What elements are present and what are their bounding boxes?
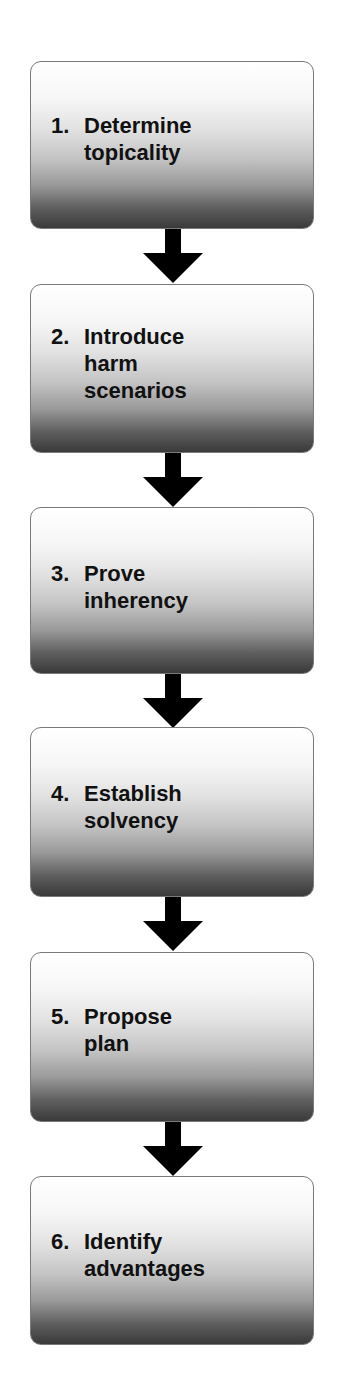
step-label-5: 5.Propose plan xyxy=(51,1003,303,1057)
step-box-5: 5.Propose plan xyxy=(30,952,314,1122)
step-box-1: 1.Determine topicality xyxy=(30,61,314,229)
down-arrow-icon xyxy=(143,1122,203,1176)
down-arrow-icon xyxy=(143,453,203,507)
step-label-1: 1.Determine topicality xyxy=(51,112,303,166)
step-box-6: 6.Identify advantages xyxy=(30,1176,314,1345)
step-box-3: 3.Prove inherency xyxy=(30,507,314,674)
step-label-3: 3.Prove inherency xyxy=(51,560,303,614)
down-arrow-icon xyxy=(143,674,203,727)
step-box-4: 4.Establish solvency xyxy=(30,727,314,897)
step-box-2: 2.Introduce harm scenarios xyxy=(30,284,314,453)
down-arrow-icon xyxy=(143,897,203,952)
down-arrow-icon xyxy=(143,229,203,284)
step-label-2: 2.Introduce harm scenarios xyxy=(51,323,303,404)
step-label-6: 6.Identify advantages xyxy=(51,1228,303,1282)
step-label-4: 4.Establish solvency xyxy=(51,780,303,834)
